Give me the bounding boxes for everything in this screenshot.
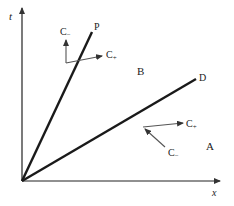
c-plus-arrow-on-d bbox=[143, 123, 183, 127]
c-plus-label-d: C+ bbox=[186, 118, 197, 131]
c-minus-label-d: C− bbox=[168, 147, 179, 160]
characteristics-diagram: t x P D C− C+ C+ C− B A bbox=[0, 0, 234, 206]
c-plus-label-p: C+ bbox=[106, 49, 117, 62]
line-p-label: P bbox=[94, 21, 100, 32]
c-minus-label-p: C− bbox=[60, 26, 71, 39]
t-axis-label: t bbox=[9, 10, 13, 22]
line-d bbox=[22, 79, 196, 181]
line-d-label: D bbox=[199, 72, 206, 83]
region-b-label: B bbox=[137, 65, 144, 77]
line-p bbox=[22, 32, 92, 181]
x-axis-label: x bbox=[211, 187, 217, 198]
c-minus-arrow-on-d bbox=[145, 129, 165, 147]
region-a-label: A bbox=[206, 140, 214, 152]
c-plus-arrow-on-p bbox=[66, 56, 102, 63]
